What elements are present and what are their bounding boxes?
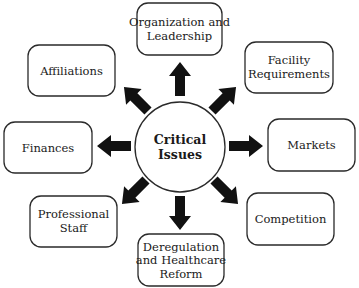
arrow-left-icon bbox=[97, 135, 131, 157]
node-label: Staff bbox=[60, 221, 88, 235]
arrow-down-icon bbox=[169, 196, 191, 230]
critical-issues-diagram: Critical Issues Organization and Leaders… bbox=[0, 0, 359, 288]
node-finances: Finances bbox=[4, 122, 92, 173]
node-label: Deregulation bbox=[143, 240, 220, 254]
node-label: Markets bbox=[287, 138, 336, 152]
node-label: Organization and bbox=[129, 15, 231, 29]
node-label: Competition bbox=[255, 212, 327, 226]
node-facility-requirements: Facility Requirements bbox=[245, 42, 333, 93]
arrow-up-icon bbox=[169, 62, 191, 96]
hub-critical-issues: Critical Issues bbox=[135, 102, 225, 192]
node-organization-leadership: Organization and Leadership bbox=[129, 3, 231, 55]
node-label: and Healthcare bbox=[136, 253, 226, 267]
node-label: Finances bbox=[22, 141, 75, 155]
node-label: Reform bbox=[159, 267, 202, 281]
node-competition: Competition bbox=[247, 193, 334, 245]
hub-label-line1: Critical bbox=[154, 132, 207, 147]
node-label: Professional bbox=[38, 207, 110, 221]
node-professional-staff: Professional Staff bbox=[30, 196, 117, 247]
node-label: Leadership bbox=[147, 29, 212, 43]
node-label: Affiliations bbox=[39, 64, 103, 78]
node-label: Requirements bbox=[248, 67, 330, 81]
node-affiliations: Affiliations bbox=[28, 45, 115, 96]
hub-label-line2: Issues bbox=[158, 147, 202, 162]
node-markets: Markets bbox=[268, 119, 355, 171]
node-deregulation-healthcare-reform: Deregulation and Healthcare Reform bbox=[136, 234, 226, 286]
arrow-right-icon bbox=[229, 135, 263, 157]
node-label: Facility bbox=[268, 53, 311, 67]
